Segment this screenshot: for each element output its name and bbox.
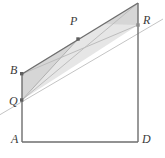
vertex-label-q: Q: [9, 95, 18, 107]
vertex-label-r: R: [143, 14, 150, 26]
point-marker-p: [76, 37, 79, 40]
point-marker-b: [20, 72, 23, 75]
line-b-r: [22, 25, 138, 74]
vertex-label-a: A: [11, 133, 18, 145]
segment-upper-line-b-apex: [22, 3, 138, 74]
point-marker-r: [136, 23, 139, 26]
vertex-label-d: D: [142, 133, 151, 145]
geometry-figure: B Q A D P R: [0, 0, 165, 158]
point-marker-q: [20, 98, 23, 101]
figure-canvas: [0, 0, 165, 158]
vertex-label-b: B: [10, 64, 17, 76]
vertex-label-p: P: [70, 15, 77, 27]
line-q-apex: [22, 3, 138, 100]
